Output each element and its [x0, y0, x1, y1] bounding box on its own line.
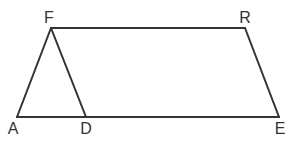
segment-af: [17, 28, 51, 117]
vertex-label-f: F: [44, 9, 54, 26]
diagram-segments: [17, 28, 279, 117]
vertex-label-a: A: [8, 120, 19, 137]
vertex-label-r: R: [239, 9, 251, 26]
geometry-diagram: F R A D E: [0, 0, 291, 142]
vertex-label-d: D: [80, 120, 92, 137]
segment-re: [245, 28, 279, 117]
segment-fd: [51, 28, 86, 117]
vertex-label-e: E: [275, 120, 286, 137]
